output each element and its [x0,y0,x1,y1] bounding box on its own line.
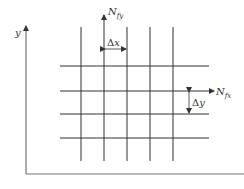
x-flux-label: Nfx [215,86,231,100]
delta-y-dimension: Δy [189,92,205,113]
finite-difference-grid-diagram: y Nfy Nfx Δx Δy [0,0,244,189]
delta-x-dimension: Δx [105,37,126,49]
vertical-grid-lines [81,15,173,161]
axes: y [14,26,244,174]
delta-x-label: Δx [107,37,120,48]
delta-y-label: Δy [192,97,205,108]
y-flux-label: Nfy [107,6,124,20]
horizontal-grid-lines [60,66,214,138]
y-axis-label: y [14,27,21,38]
